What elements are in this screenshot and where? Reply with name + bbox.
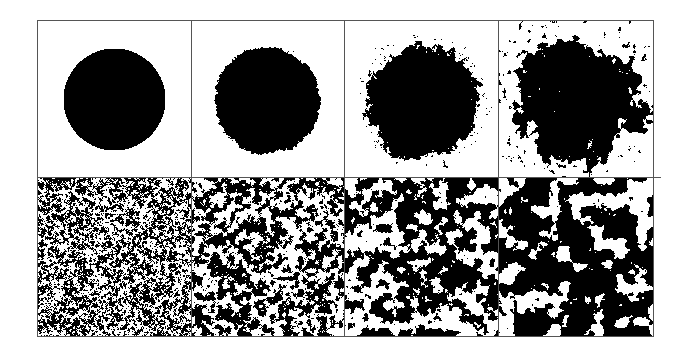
panel-noise-t1 (38, 178, 191, 336)
cluster-image (345, 21, 498, 177)
panel-cluster-t4 (499, 21, 653, 177)
column-divider (191, 20, 192, 336)
noise-image (499, 178, 653, 336)
panel-cluster-t1 (38, 21, 191, 177)
panel-noise-t4 (499, 178, 653, 336)
noise-image (192, 178, 344, 336)
row-divider (37, 177, 661, 178)
cluster-image (192, 21, 344, 177)
cluster-image (499, 21, 653, 177)
column-divider (498, 20, 499, 336)
noise-image (345, 178, 498, 336)
figure (0, 0, 689, 353)
noise-image (38, 178, 191, 336)
panel-cluster-t2 (192, 21, 344, 177)
cluster-image (38, 21, 191, 177)
column-divider (344, 20, 345, 336)
panel-cluster-t3 (345, 21, 498, 177)
panel-noise-t3 (345, 178, 498, 336)
panel-noise-t2 (192, 178, 344, 336)
